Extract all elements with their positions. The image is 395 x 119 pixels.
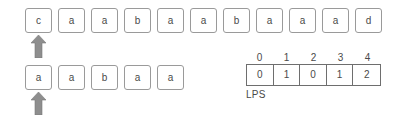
lps-value-row: 0 1 0 1 2 [246, 64, 381, 86]
lps-table: 0 1 2 3 4 0 1 0 1 2 LPS [246, 51, 381, 100]
lps-index-label: 4 [354, 51, 381, 64]
text-cell[interactable]: a [190, 8, 217, 33]
text-cell[interactable]: a [256, 8, 283, 33]
text-cell[interactable]: a [289, 8, 316, 33]
pattern-cell[interactable]: b [91, 65, 118, 90]
pattern-cell[interactable]: a [25, 65, 52, 90]
text-cell[interactable]: a [58, 8, 85, 33]
kmp-diagram: c a a b a a b a a a d a a b a a 0 1 2 3 … [0, 0, 395, 119]
lps-index-header: 0 1 2 3 4 [246, 51, 381, 64]
text-cell[interactable]: b [124, 8, 151, 33]
lps-index-label: 0 [246, 51, 273, 64]
lps-index-label: 2 [300, 51, 327, 64]
lps-value-cell[interactable]: 1 [274, 65, 301, 85]
lps-table-label: LPS [246, 89, 381, 100]
text-cell[interactable]: b [223, 8, 250, 33]
up-arrow-icon [31, 92, 46, 115]
text-cell[interactable]: a [322, 8, 349, 33]
pattern-cell[interactable]: a [157, 65, 184, 90]
lps-index-label: 1 [273, 51, 300, 64]
text-cell[interactable]: d [355, 8, 382, 33]
pattern-cell[interactable]: a [58, 65, 85, 90]
pattern-string-row: a a b a a [25, 65, 184, 90]
lps-value-cell[interactable]: 0 [247, 65, 274, 85]
lps-index-label: 3 [327, 51, 354, 64]
up-arrow-icon [31, 35, 46, 58]
text-cell[interactable]: c [25, 8, 52, 33]
lps-value-cell[interactable]: 1 [327, 65, 354, 85]
pattern-cell[interactable]: a [124, 65, 151, 90]
text-cell[interactable]: a [157, 8, 184, 33]
lps-value-cell[interactable]: 0 [300, 65, 327, 85]
lps-value-cell[interactable]: 2 [353, 65, 380, 85]
text-string-row: c a a b a a b a a a d [25, 8, 382, 33]
text-cell[interactable]: a [91, 8, 118, 33]
